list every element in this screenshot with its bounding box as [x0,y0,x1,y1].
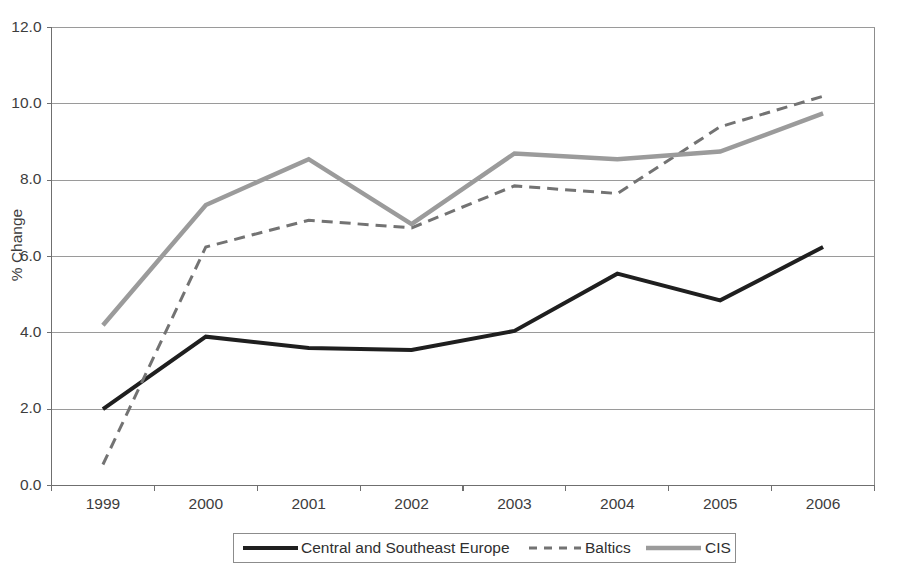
line-chart: 0.02.04.06.08.010.012.0 1999200020012002… [0,0,897,586]
y-axis-tick-label: 2.0 [20,399,42,416]
x-axis-tick-label: 2001 [291,495,325,512]
legend-label: CIS [705,539,731,556]
legend-label: Central and Southeast Europe [301,539,510,556]
chart-background [0,0,897,586]
x-axis-tick-label: 2004 [600,495,635,512]
chart-legend: Central and Southeast EuropeBalticsCIS [233,533,735,562]
x-axis-tick-label: 2005 [703,495,737,512]
y-axis-tick-label: 10.0 [11,94,42,111]
legend-label: Baltics [585,539,631,556]
y-axis-tick-label: 0.0 [20,476,42,493]
chart-canvas: 0.02.04.06.08.010.012.0 1999200020012002… [0,0,897,586]
x-axis-tick-label: 1999 [86,495,120,512]
x-axis-tick-label: 2003 [497,495,531,512]
x-axis-tick-label: 2006 [806,495,840,512]
y-axis-tick-label: 4.0 [20,323,42,340]
y-axis-tick-label: 12.0 [11,18,42,35]
y-axis-title: % Change [8,209,25,281]
x-axis-tick-label: 2002 [394,495,428,512]
x-axis-tick-label: 2000 [189,495,224,512]
y-axis-tick-label: 8.0 [20,170,42,187]
